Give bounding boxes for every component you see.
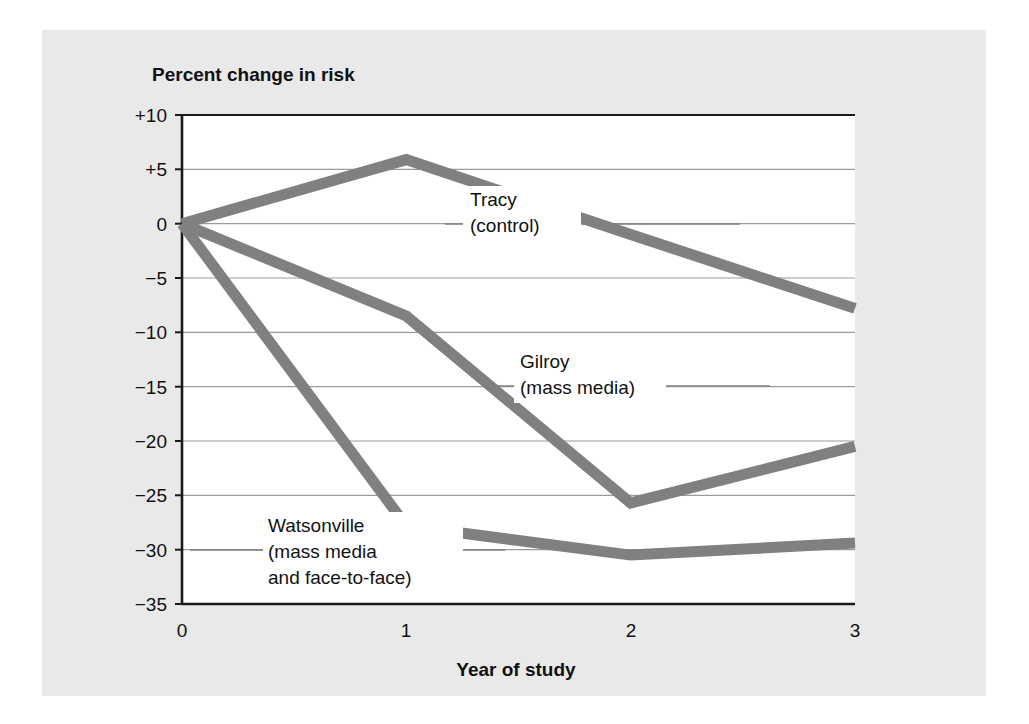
annotation-gilroy-line1: Gilroy	[520, 351, 570, 372]
annotation-watsonville-line3: and face-to-face)	[268, 567, 412, 588]
y-axis-title: Percent change in risk	[152, 64, 355, 85]
x-axis-title: Year of study	[456, 659, 576, 680]
y-tick-label-minus20: −20	[135, 431, 167, 452]
y-tick-label-plus5: +5	[145, 159, 167, 180]
y-tick-label-minus10: −10	[135, 322, 167, 343]
x-tick-label-1: 1	[401, 620, 412, 641]
chart-page: +10 +5 0 −5 −10 −15 −20 −25 −30 −35 0 1 …	[0, 0, 1029, 724]
y-tick-label-minus5: −5	[145, 268, 167, 289]
x-tick-label-0: 0	[177, 620, 188, 641]
y-tick-label-minus30: −30	[135, 540, 167, 561]
y-tick-label-minus25: −25	[135, 485, 167, 506]
x-tick-label-3: 3	[850, 620, 861, 641]
annotation-gilroy-line2: (mass media)	[520, 377, 635, 398]
y-tick-label-plus10: +10	[135, 105, 167, 126]
annotation-tracy-line1: Tracy	[470, 189, 517, 210]
line-chart: +10 +5 0 −5 −10 −15 −20 −25 −30 −35 0 1 …	[0, 0, 1029, 724]
annotation-tracy-line2: (control)	[470, 215, 540, 236]
x-tick-label-2: 2	[626, 620, 637, 641]
annotation-watsonville-line1: Watsonville	[268, 515, 364, 536]
y-tick-label-minus15: −15	[135, 377, 167, 398]
annotation-watsonville-line2: (mass media	[268, 541, 377, 562]
y-tick-label-minus35: −35	[135, 594, 167, 615]
y-tick-label-zero: 0	[156, 214, 167, 235]
